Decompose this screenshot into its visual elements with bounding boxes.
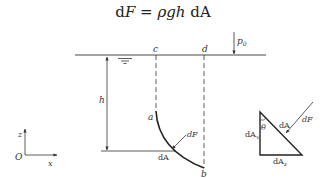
point-b-label: b	[201, 169, 207, 178]
dA-label: dA	[158, 153, 169, 162]
dAz-label: dAz	[273, 157, 287, 167]
point-d-label: d	[202, 44, 208, 54]
x-axis-label: x	[48, 159, 53, 168]
triangle-dA-label: dA	[279, 121, 290, 130]
dF-label: dF	[187, 130, 198, 139]
triangle-dF-label: dF	[302, 115, 313, 124]
curved-surface-diagram: p0 c d h a b dF dA z x O θ dA dAx dAz dF	[0, 0, 326, 178]
theta-label: θ	[261, 123, 266, 132]
dF-arrow	[172, 135, 186, 149]
element-triangle: θ dA dAx dAz dF	[245, 102, 313, 167]
point-c-label: c	[153, 44, 158, 54]
origin-label: O	[15, 152, 23, 162]
point-a-label: a	[148, 112, 153, 122]
dAx-label: dAx	[245, 130, 260, 140]
z-axis-label: z	[17, 130, 23, 139]
depth-h-label: h	[99, 95, 105, 105]
p0-label: p0	[237, 36, 247, 47]
water-level-symbol	[118, 59, 132, 64]
